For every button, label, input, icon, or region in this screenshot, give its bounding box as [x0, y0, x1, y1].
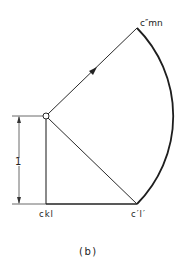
- arrow-down-icon: [17, 197, 21, 204]
- circular-arc: [137, 28, 173, 204]
- label-dimension: 1: [15, 156, 21, 167]
- geometry-diagram: c″mn ckl c′l′ 1 (b): [0, 0, 185, 262]
- label-bottom-right: c′l′: [131, 209, 146, 219]
- label-top-point: c″mn: [140, 18, 163, 28]
- arrow-up-icon: [17, 116, 21, 123]
- label-bottom-left: ckl: [39, 209, 54, 219]
- origin-point-icon: [43, 113, 49, 119]
- figure-caption: (b): [79, 246, 98, 257]
- diagonal-to-c-prime: [48, 118, 137, 204]
